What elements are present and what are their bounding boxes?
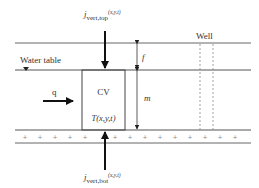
flux-top-sub: vert,top (87, 14, 109, 22)
aquitard-markers: +++ +++ +++ +++ ++ (22, 133, 237, 140)
flux-bottom-args: (x,y,t) (108, 172, 121, 179)
svg-text:+: + (172, 133, 177, 140)
well-label: Well (196, 31, 213, 41)
svg-text:+: + (187, 133, 192, 140)
flux-bottom-label: jvert,bot(x,y,t) (83, 172, 121, 185)
svg-text:+: + (37, 133, 42, 140)
flux-bottom-sub: vert,bot (87, 177, 109, 185)
svg-text:+: + (127, 133, 132, 140)
svg-text:+: + (217, 133, 222, 140)
svg-text:+: + (82, 133, 87, 140)
water-table-label: Water table (20, 55, 61, 65)
svg-text:+: + (232, 133, 237, 140)
flux-top-args: (x,y,t) (108, 9, 121, 16)
svg-text:+: + (112, 133, 117, 140)
svg-text:+: + (67, 133, 72, 140)
dimension-f-label: f (142, 52, 146, 62)
svg-text:+: + (22, 133, 27, 140)
flow-q-label: q (52, 87, 57, 97)
svg-text:+: + (202, 133, 207, 140)
dimension-m-label: m (144, 93, 151, 103)
svg-text:+: + (52, 133, 57, 140)
temperature-label: T(x,y,t) (91, 113, 115, 123)
svg-text:+: + (142, 133, 147, 140)
flux-top-label: jvert,top(x,y,t) (83, 9, 121, 22)
cv-label: CV (97, 87, 110, 97)
svg-text:+: + (157, 133, 162, 140)
aquifer-diagram: +++ +++ +++ +++ ++ Water table Well CV T… (0, 0, 259, 188)
